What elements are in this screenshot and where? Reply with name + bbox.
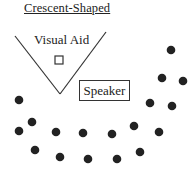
audience-seat-dot (84, 155, 93, 164)
audience-seat-dot (108, 130, 117, 139)
audience-seat-dot (31, 146, 40, 155)
audience-seat-dot (179, 77, 188, 86)
audience-seat-dot (158, 74, 167, 83)
audience-seat-dot (15, 127, 24, 136)
audience-seat-dot (113, 155, 122, 164)
audience-seat-dot (56, 153, 65, 162)
audience-seat-dot (167, 46, 176, 55)
speaker-box: Speaker (79, 80, 130, 101)
visual-aid-square (55, 56, 63, 64)
audience-seat-dot (168, 102, 177, 111)
audience-seat-dot (146, 99, 155, 108)
audience-seat-dot (28, 118, 37, 127)
audience-seat-dot (136, 148, 145, 157)
audience-seat-dot (155, 128, 164, 137)
visual-aid-label: Visual Aid (34, 32, 89, 48)
audience-seats (15, 46, 188, 164)
audience-seat-dot (130, 122, 139, 131)
audience-seat-dot (15, 96, 24, 105)
audience-seat-dot (52, 128, 61, 137)
audience-seat-dot (79, 129, 88, 138)
